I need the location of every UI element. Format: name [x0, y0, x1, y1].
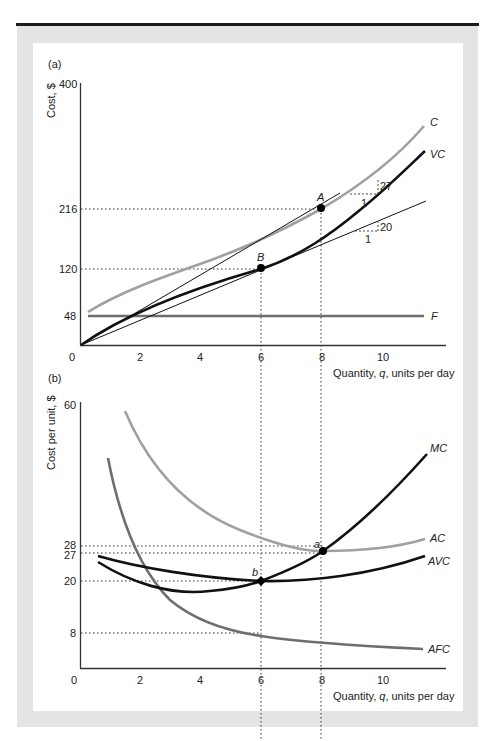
curve-label-AFC: AFC [427, 643, 450, 655]
panel-b-x-axis-label: Quantity, q, units per day [333, 690, 455, 702]
panel-a-xtick: 2 [137, 351, 143, 363]
point-a [319, 547, 327, 555]
panel-b: (b) Cost per unit, $ 60 28 27 20 8 0 2 4… [45, 372, 455, 702]
panel-a: (a) Cost, $ 400 216 120 48 0 2 4 6 8 10 … [45, 58, 455, 741]
panel-a-label: (a) [48, 58, 61, 70]
panel-b-xtick: 8 [319, 674, 325, 686]
panel-a-xtick: 10 [377, 351, 389, 363]
panel-b-ytick: 27 [64, 549, 76, 561]
panel-a-ytick: 400 [59, 78, 77, 90]
point-b-label: b [252, 566, 258, 578]
panel-b-y-axis-label: Cost per unit, $ [45, 395, 57, 470]
panel-b-ytick: 20 [64, 575, 76, 587]
panel-b-xtick: 2 [137, 674, 143, 686]
panel-b-ytick: 60 [64, 399, 76, 411]
panel-a-xtick: 4 [197, 351, 203, 363]
point-A [317, 204, 325, 212]
panel-a-xtick: 0 [69, 351, 75, 363]
panel-a-x-axis-label: Quantity, q, units per day [333, 367, 455, 379]
point-B-label: B [257, 251, 264, 263]
panel-b-label: (b) [48, 372, 61, 384]
panel-b-xtick: 6 [258, 674, 264, 686]
panel-b-xtick: 10 [377, 674, 389, 686]
point-a-label: a [314, 538, 320, 550]
cost-curves-figure: (a) Cost, $ 400 216 120 48 0 2 4 6 8 10 … [0, 0, 492, 741]
tangent-through-B [81, 201, 426, 345]
panel-a-ytick: 216 [59, 203, 77, 215]
panel-b-xtick: 0 [71, 674, 77, 686]
slope-run-27: 1 [361, 197, 367, 209]
curve-label-AC: AC [429, 532, 445, 544]
panel-a-ytick: 48 [64, 310, 76, 322]
point-B [257, 264, 265, 272]
slope-rise-27: 27 [380, 180, 392, 192]
point-A-label: A [316, 191, 324, 203]
panel-b-xtick: 4 [197, 674, 203, 686]
curve-label-VC: VC [430, 148, 445, 160]
slope-run-20: 1 [365, 233, 371, 245]
total-cost-curve [88, 126, 424, 312]
panel-b-ytick: 8 [70, 627, 76, 639]
curve-label-MC: MC [430, 442, 447, 454]
curve-label-C: C [430, 116, 438, 128]
curve-label-AVC: AVC [427, 555, 450, 567]
slope-rise-20: 20 [380, 221, 392, 233]
panel-a-y-axis-label: Cost, $ [45, 83, 57, 118]
panel-a-ytick: 120 [59, 263, 77, 275]
average-cost-curve [125, 411, 425, 551]
curve-label-F: F [431, 310, 439, 322]
panel-a-xtick: 8 [319, 351, 325, 363]
